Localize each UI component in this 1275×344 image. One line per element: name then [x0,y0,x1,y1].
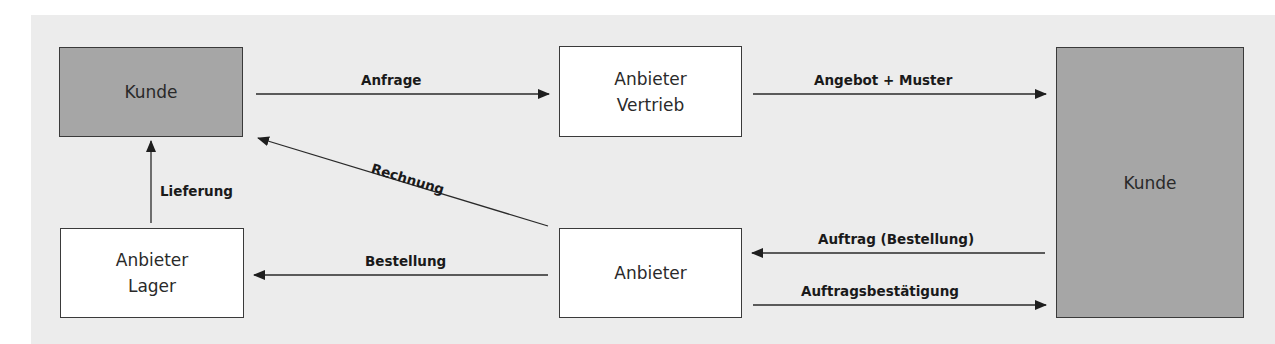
node-kunde-top-left: Kunde [59,47,243,137]
edge-label-bestellung: Bestellung [365,253,446,269]
node-anbieter-vertrieb: Anbieter Vertrieb [559,46,742,137]
node-label: Anbieter Lager [116,247,189,299]
edge-label-anfrage: Anfrage [361,72,422,88]
node-anbieter-lager: Anbieter Lager [60,228,244,318]
edge-label-lieferung: Lieferung [160,183,233,199]
edge-label-auftragsbestaetigung: Auftragsbestätigung [801,283,959,299]
node-label: Kunde [1123,170,1176,196]
node-anbieter: Anbieter [559,228,742,318]
node-label: Kunde [124,79,177,105]
node-label: Anbieter Vertrieb [614,66,687,118]
node-label: Anbieter [614,260,687,286]
edge-label-angebot-muster: Angebot + Muster [814,72,952,88]
edge-label-auftrag: Auftrag (Bestellung) [818,231,974,247]
node-kunde-right: Kunde [1056,47,1244,318]
